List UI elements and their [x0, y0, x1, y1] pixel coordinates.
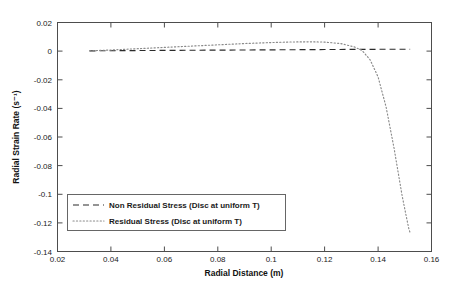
- legend-label-residual-stress: Residual Stress (Disc at uniform T): [109, 217, 242, 226]
- y-tick-labels: 0.02 0 -0.02 -0.04 -0.06 -0.08 -0.1 -0.1…: [34, 19, 53, 257]
- y-tick-label: -0.14: [34, 248, 53, 257]
- y-axis-ticks-right: [427, 51, 432, 223]
- radial-strain-rate-line-chart: 0.02 0.04 0.06 0.08 0.1 0.12 0.14 0.16 0…: [0, 0, 461, 293]
- y-tick-label: -0.08: [34, 162, 53, 171]
- x-tick-label: 0.12: [317, 255, 333, 264]
- y-tick-label: 0.02: [36, 19, 52, 28]
- y-tick-label: -0.1: [38, 190, 52, 199]
- series-non-residual-stress: [90, 49, 411, 51]
- y-tick-label: 0: [48, 47, 53, 56]
- x-tick-label: 0.1: [266, 255, 278, 264]
- x-tick-label: 0.04: [103, 255, 119, 264]
- y-tick-label: -0.02: [34, 76, 53, 85]
- chart-legend[interactable]: Non Residual Stress (Disc at uniform T) …: [68, 195, 286, 231]
- x-axis-title: Radial Distance (m): [205, 268, 284, 278]
- x-tick-label: 0.14: [370, 255, 386, 264]
- y-axis-ticks: [58, 23, 63, 252]
- y-tick-label: -0.04: [34, 104, 53, 113]
- x-tick-labels: 0.02 0.04 0.06 0.08 0.1 0.12 0.14 0.16: [50, 255, 440, 264]
- x-tick-label: 0.06: [157, 255, 173, 264]
- chart-figure: 0.02 0.04 0.06 0.08 0.1 0.12 0.14 0.16 0…: [0, 0, 461, 293]
- x-axis-ticks: [58, 247, 432, 252]
- x-axis-ticks-top: [111, 23, 378, 28]
- x-tick-label: 0.08: [210, 255, 226, 264]
- legend-label-non-residual-stress: Non Residual Stress (Disc at uniform T): [109, 201, 260, 210]
- x-tick-label: 0.16: [424, 255, 440, 264]
- y-tick-label: -0.12: [34, 219, 53, 228]
- y-tick-label: -0.06: [34, 133, 53, 142]
- y-axis-title: Radial Strain Rate (s⁻¹): [11, 90, 21, 183]
- x-tick-label: 0.02: [50, 255, 66, 264]
